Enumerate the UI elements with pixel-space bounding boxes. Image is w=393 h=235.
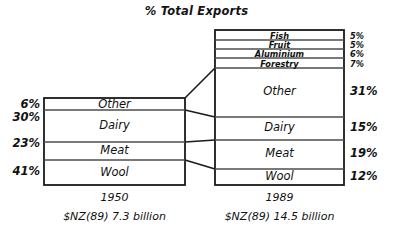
right-pct-dairy: 15% — [350, 122, 378, 134]
left-column-year: 1950 — [44, 192, 185, 203]
right-band-label-aluminium: Aluminium — [215, 50, 344, 58]
left-pct-other: 6% — [2, 99, 40, 111]
left-pct-wool: 41% — [2, 166, 40, 178]
right-band-label-fish: Fish — [215, 32, 344, 40]
right-band-label-forestry: Forestry — [215, 60, 344, 68]
right-band-label-dairy: Dairy — [215, 122, 344, 134]
connector-other-top — [185, 68, 215, 98]
left-band-label-other: Other — [44, 99, 185, 111]
connector-dairy-bottom — [185, 140, 215, 142]
right-band-label-wool: Wool — [215, 171, 344, 183]
right-pct-meat: 19% — [350, 148, 378, 160]
connector-lines — [185, 68, 215, 169]
right-pct-aluminium: 6% — [350, 50, 364, 58]
left-pct-meat: 23% — [2, 138, 40, 150]
left-band-label-dairy: Dairy — [44, 120, 185, 132]
right-pct-other: 31% — [350, 86, 378, 98]
right-pct-fruit: 5% — [350, 41, 364, 49]
exports-comparison-chart: % Total Exports Other Dair — [0, 0, 393, 235]
right-pct-wool: 12% — [350, 171, 378, 183]
right-band-label-other: Other — [215, 86, 344, 98]
right-pct-fish: 5% — [350, 32, 364, 40]
left-band-label-meat: Meat — [44, 145, 185, 157]
right-column-year: 1989 — [215, 192, 344, 203]
connector-meat-bottom — [185, 160, 215, 169]
right-band-label-fruit: Fruit — [215, 41, 344, 49]
right-pct-forestry: 7% — [350, 60, 364, 68]
right-band-label-meat: Meat — [215, 148, 344, 160]
right-column-total: $NZ(89) 14.5 billion — [209, 211, 350, 222]
connector-other-bottom — [185, 110, 215, 117]
left-pct-dairy: 30% — [2, 112, 40, 124]
left-column-total: $NZ(89) 7.3 billion — [14, 211, 215, 222]
left-band-label-wool: Wool — [44, 167, 185, 179]
